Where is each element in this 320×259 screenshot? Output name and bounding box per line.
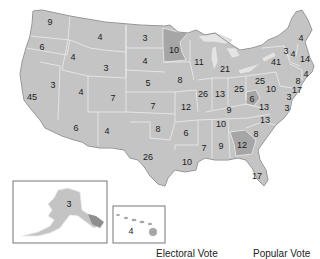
state-label-mn: 10 xyxy=(169,46,179,55)
state-label-wv: 6 xyxy=(249,95,254,104)
state-label-pa: 25 xyxy=(255,77,265,86)
state-label-oh: 25 xyxy=(234,85,244,94)
state-label-ak: 3 xyxy=(66,200,71,209)
state-label-ar: 6 xyxy=(183,129,188,138)
state-label-nc: 13 xyxy=(260,116,270,125)
state-label-mt: 4 xyxy=(97,33,102,42)
state-label-ri: 4 xyxy=(303,70,308,79)
state-label-de: 3 xyxy=(286,93,291,102)
state-label-vt: 3 xyxy=(283,47,288,56)
state-label-ok: 8 xyxy=(155,125,160,134)
state-label-ia: 8 xyxy=(177,76,182,85)
state-label-sc: 8 xyxy=(253,130,258,139)
state-label-ne: 5 xyxy=(145,79,150,88)
state-label-ca: 45 xyxy=(27,93,37,102)
state-label-nd: 3 xyxy=(142,34,147,43)
state-label-ga: 12 xyxy=(237,141,247,150)
state-label-wy: 3 xyxy=(103,64,108,73)
state-label-tx: 26 xyxy=(143,153,153,162)
hawaii-inset-frame xyxy=(113,206,165,243)
state-label-in: 13 xyxy=(215,90,225,99)
state-label-hi: 4 xyxy=(128,227,133,236)
state-label-ma: 14 xyxy=(300,55,310,64)
state-label-ky: 9 xyxy=(226,106,231,115)
state-label-mi: 21 xyxy=(220,65,230,74)
state-label-nh: 4 xyxy=(290,50,295,59)
state-label-va: 13 xyxy=(259,103,269,112)
state-label-nm: 4 xyxy=(104,127,109,136)
legend-popular-vote: Popular Vote xyxy=(253,248,310,259)
state-label-me: 4 xyxy=(298,34,303,43)
state-label-il: 26 xyxy=(198,90,208,99)
legend-electoral-vote: Electoral Vote xyxy=(156,248,218,259)
state-label-nj: 17 xyxy=(292,86,302,95)
state-label-ks: 7 xyxy=(150,102,155,111)
state-label-al: 9 xyxy=(218,142,223,151)
state-label-wi: 11 xyxy=(194,58,203,67)
state-label-tn: 10 xyxy=(216,120,226,129)
state-label-dc: 3 xyxy=(284,104,289,113)
state-label-or: 6 xyxy=(39,43,44,52)
state-label-md: 10 xyxy=(266,85,276,94)
state-label-fl: 17 xyxy=(252,172,262,181)
state-label-ny: 41 xyxy=(271,58,281,67)
state-label-la: 10 xyxy=(182,158,192,167)
state-label-co: 7 xyxy=(110,94,115,103)
state-label-sd: 4 xyxy=(142,57,147,66)
state-label-id: 4 xyxy=(70,53,75,62)
state-label-mo: 12 xyxy=(181,103,191,112)
state-label-az: 6 xyxy=(73,124,78,133)
state-label-nv: 3 xyxy=(50,81,55,90)
state-label-wa: 9 xyxy=(47,18,52,27)
state-label-ut: 4 xyxy=(78,88,83,97)
state-label-ms: 7 xyxy=(201,144,206,153)
